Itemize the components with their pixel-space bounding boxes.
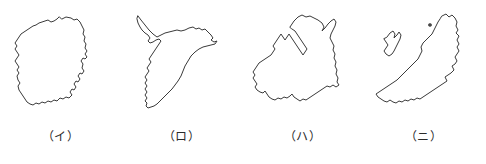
shape-panel-1: （イ） bbox=[0, 0, 121, 164]
shape-panel-3: （ハ） bbox=[242, 0, 363, 164]
shape-panel-2: （ロ） bbox=[121, 0, 242, 164]
panel-label-4: （ニ） bbox=[363, 128, 484, 146]
panel-label-2: （ロ） bbox=[121, 128, 242, 146]
shape-panel-4: （ニ） bbox=[363, 0, 484, 164]
chiba-prefecture-outline bbox=[121, 6, 242, 124]
awashima-islet-dot bbox=[428, 24, 431, 27]
prefecture-outline-figure: （イ） （ロ） （ハ） （ニ bbox=[0, 0, 486, 164]
panel-label-1: （イ） bbox=[0, 128, 121, 146]
aomori-prefecture-outline bbox=[242, 6, 363, 124]
niigata-prefecture-outline bbox=[363, 6, 484, 124]
tochigi-prefecture-outline bbox=[0, 6, 121, 124]
panel-label-3: （ハ） bbox=[242, 128, 363, 146]
